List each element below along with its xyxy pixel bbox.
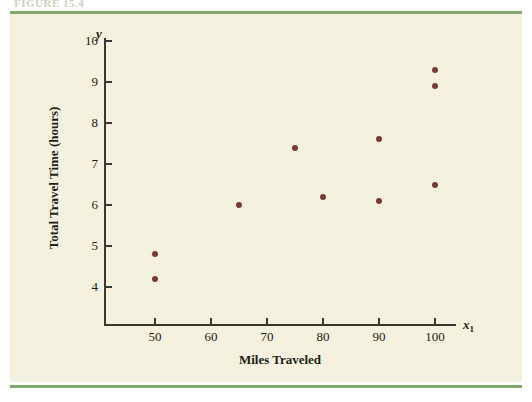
data-point (376, 198, 382, 204)
data-point (432, 182, 438, 188)
data-point (432, 83, 438, 89)
y-axis-tick-label: 5 (70, 238, 98, 254)
x-axis-line (104, 324, 456, 326)
x-axis-tick-label: 90 (359, 329, 399, 345)
y-axis-tick-label: 6 (70, 197, 98, 213)
data-point (152, 276, 158, 282)
x-axis-variable-label: x1 (463, 317, 474, 334)
x-axis-tick (378, 318, 380, 326)
data-point (236, 202, 242, 208)
x-axis-tick (266, 318, 268, 326)
figure-container: FIGURE 15.4 y x1 Miles Traveled Total Tr… (0, 0, 532, 402)
y-axis-tick-label: 7 (70, 156, 98, 172)
y-axis-tick (104, 122, 112, 124)
scatter-plot: y x1 Miles Traveled Total Travel Time (h… (0, 0, 532, 402)
y-axis-tick (104, 81, 112, 83)
x-axis-tick (154, 318, 156, 326)
x-axis-tick-label: 80 (303, 329, 343, 345)
data-point (152, 251, 158, 257)
y-axis-tick (104, 204, 112, 206)
y-axis-tick (104, 286, 112, 288)
data-point (432, 67, 438, 73)
x-axis-tick (434, 318, 436, 326)
y-axis-tick (104, 40, 112, 42)
x-variable-subscript: 1 (470, 324, 475, 334)
y-axis-tick-label: 4 (70, 279, 98, 295)
data-point (376, 136, 382, 142)
x-axis-tick (210, 318, 212, 326)
x-axis-tick-label: 70 (247, 329, 287, 345)
y-axis-tick-label: 8 (70, 115, 98, 131)
data-point (292, 145, 298, 151)
y-axis-tick-label: 9 (70, 74, 98, 90)
x-axis-title: Miles Traveled (104, 352, 456, 368)
x-axis-tick (322, 318, 324, 326)
x-axis-tick-label: 60 (191, 329, 231, 345)
x-axis-tick-label: 100 (415, 329, 455, 345)
y-axis-title: Total Travel Time (hours) (46, 78, 62, 278)
y-axis-tick (104, 245, 112, 247)
y-axis-tick (104, 163, 112, 165)
x-axis-tick-label: 50 (135, 329, 175, 345)
data-point (320, 194, 326, 200)
y-axis-tick-label: 10 (70, 33, 98, 49)
